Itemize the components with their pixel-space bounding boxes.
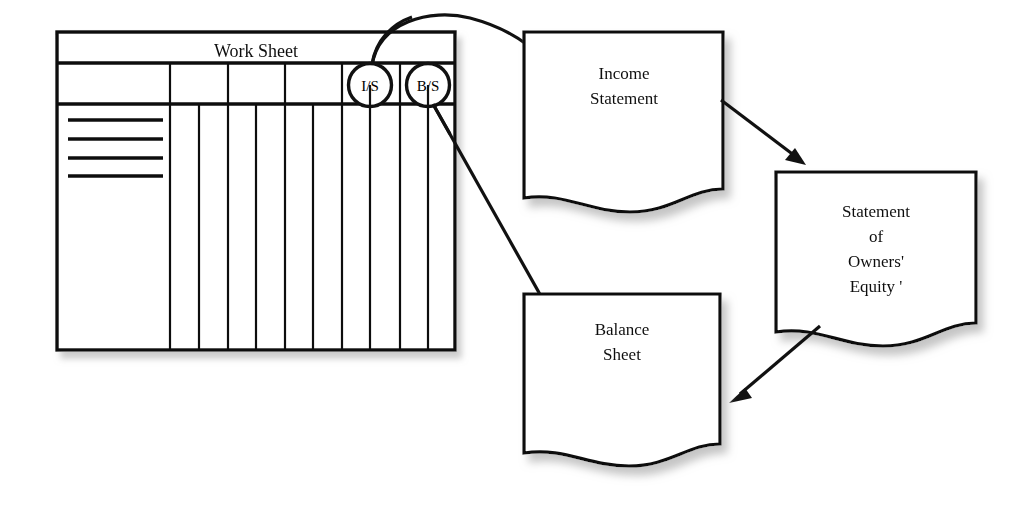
income-statement-shape bbox=[524, 32, 723, 212]
flow-diagram: Work Sheet bbox=[0, 0, 1016, 513]
owners-equity-to-balance-sheet-arrow bbox=[729, 326, 820, 403]
owners-equity-line-3: Owners' bbox=[848, 252, 904, 271]
owners-equity-line-4: Equity ' bbox=[850, 277, 903, 296]
income-statement-line-2: Statement bbox=[590, 89, 658, 108]
balance-sheet-line-1: Balance bbox=[595, 320, 650, 339]
diagram-canvas: Work Sheet bbox=[0, 0, 1016, 513]
balance-sheet-document[interactable]: Balance Sheet bbox=[524, 294, 720, 466]
balance-sheet-line-2: Sheet bbox=[603, 345, 641, 364]
work-sheet-title: Work Sheet bbox=[214, 41, 298, 61]
work-sheet[interactable]: Work Sheet bbox=[57, 32, 455, 350]
income-statement-document[interactable]: Income Statement bbox=[524, 32, 723, 212]
income-statement-to-owners-equity-arrow bbox=[721, 100, 806, 165]
statement-owners-equity-document[interactable]: Statement of Owners' Equity ' bbox=[776, 172, 976, 346]
owners-equity-line-2: of bbox=[869, 227, 884, 246]
owners-equity-line-1: Statement bbox=[842, 202, 910, 221]
income-statement-line-1: Income bbox=[599, 64, 650, 83]
